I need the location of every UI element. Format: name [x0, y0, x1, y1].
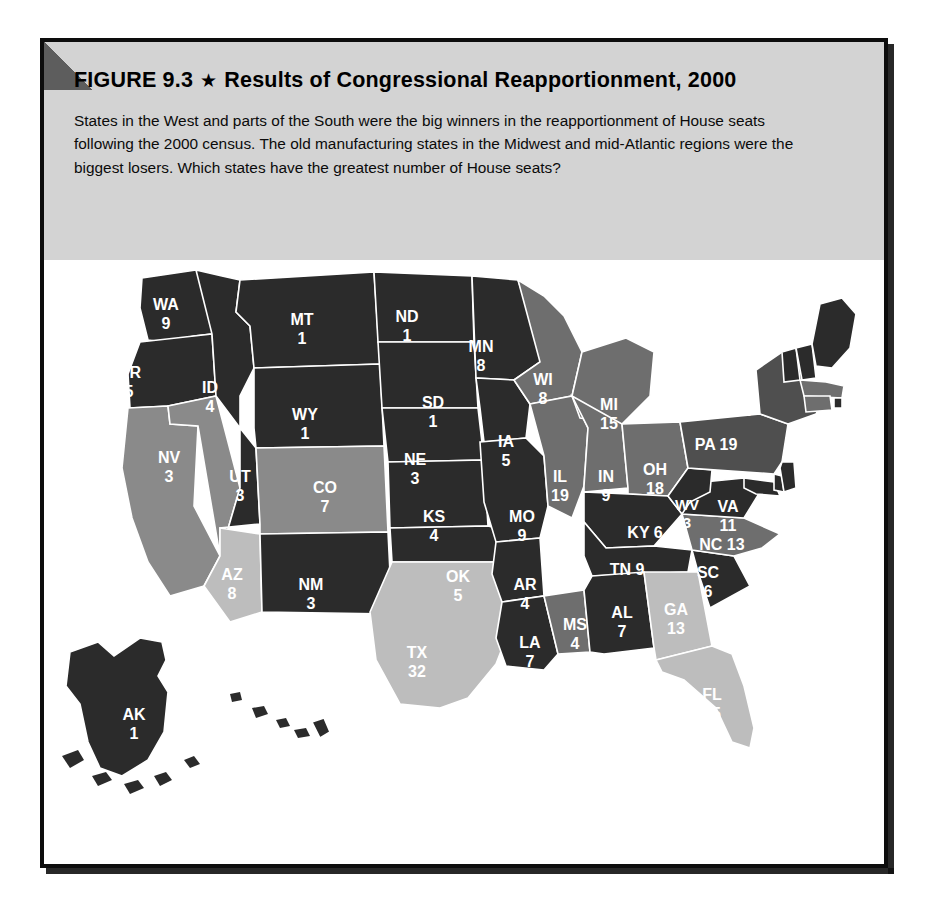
figure-number: FIGURE 9.3: [74, 68, 193, 92]
state-label-mo-abbr: MO: [509, 508, 535, 525]
state-label-az-seats: 8: [228, 585, 237, 602]
state-label-ks-seats: 4: [430, 527, 439, 544]
state-shape-ri[interactable]: [834, 398, 842, 408]
state-label-wa-seats: 9: [162, 315, 171, 332]
state-label-tx-seats: 32: [408, 663, 426, 680]
state-label-il-seats: 19: [551, 487, 569, 504]
state-label-co-abbr: CO: [313, 479, 337, 496]
state-label-sd-abbr: SD: [422, 394, 444, 411]
state-label-wy-abbr: WY: [292, 406, 318, 423]
state-label-ny-seats: 29: [735, 402, 753, 419]
state-label-wide-4: ME: [793, 304, 817, 321]
hawaii-island-3[interactable]: [276, 718, 290, 728]
state-shape-wy[interactable]: [254, 364, 384, 448]
state-label-sd-seats: 1: [429, 413, 438, 430]
state-label-fl-abbr: FL: [702, 686, 722, 703]
state-label-wa-abbr: WA: [153, 296, 179, 313]
state-label-ia-abbr: IA: [498, 433, 514, 450]
state-shape-ct[interactable]: [804, 396, 832, 412]
state-shape-hi[interactable]: [312, 718, 330, 738]
state-label-id-abbr: ID: [202, 379, 218, 396]
state-label-mi-abbr: MI: [600, 396, 618, 413]
aleutian-island-3[interactable]: [124, 780, 144, 794]
aleutian-island-1[interactable]: [62, 750, 84, 768]
state-label-sc-abbr: SC: [697, 564, 720, 581]
state-label-mo-seats: 9: [518, 527, 527, 544]
figure-container: FIGURE 9.3★Results of Congressional Reap…: [40, 38, 888, 868]
aleutian-island-2[interactable]: [92, 772, 112, 786]
state-label-wide-0: KY 6: [627, 524, 662, 541]
state-label-mn-abbr: MN: [469, 338, 494, 355]
state-label-ms-seats: 4: [571, 635, 580, 652]
us-choropleth-map[interactable]: WA9OR5ID4MT1WY1NV3UT3CO7CA53AZ8NM3ND1SD1…: [44, 256, 884, 868]
state-label-nv-abbr: NV: [158, 449, 181, 466]
state-label-or-seats: 5: [125, 383, 134, 400]
state-label-wide-3: NC 13: [699, 536, 744, 553]
state-label-va-seats: 11: [720, 517, 737, 534]
state-label-wy-seats: 1: [301, 425, 310, 442]
state-label-mt-seats: 1: [298, 330, 307, 347]
figure-frame-shadow-right: [888, 44, 894, 874]
state-label-wi-seats: 8: [539, 390, 548, 407]
state-label-ny-abbr: NY: [733, 383, 756, 400]
state-label-ia-seats: 5: [502, 452, 511, 469]
state-label-wide-1: TN 9: [610, 561, 645, 578]
aleutian-island-4[interactable]: [154, 772, 172, 786]
state-label-nv-seats: 3: [165, 468, 174, 485]
hawaii-island-2[interactable]: [252, 706, 268, 718]
state-label-mn-seats: 8: [477, 357, 486, 374]
state-label-wv-abbr: WV: [675, 496, 699, 513]
hawaii-island-4[interactable]: [294, 728, 310, 738]
state-label-in-seats: 9: [602, 487, 611, 504]
state-label-ms-abbr: MS: [563, 616, 587, 633]
figure-title-text: Results of Congressional Reapportionment…: [224, 68, 736, 92]
figure-caption: States in the West and parts of the Sout…: [74, 109, 809, 179]
state-label-oh-seats: 18: [646, 480, 664, 497]
state-label-mt-abbr: MT: [290, 311, 313, 328]
state-label-wv-seats: 3: [683, 514, 691, 531]
state-label-ga-seats: 13: [667, 620, 685, 637]
state-label-sc-seats: 6: [704, 583, 713, 600]
aleutian-island-5[interactable]: [184, 756, 200, 768]
state-label-va-abbr: VA: [717, 498, 738, 515]
state-shapes-group: [62, 270, 856, 794]
state-label-co-seats: 7: [321, 498, 330, 515]
state-label-ne-seats: 3: [411, 470, 420, 487]
star-icon: ★: [200, 70, 217, 91]
state-label-ut-seats: 3: [236, 487, 245, 504]
state-label-tx-abbr: TX: [407, 644, 428, 661]
map-area: WA9OR5ID4MT1WY1NV3UT3CO7CA53AZ8NM3ND1SD1…: [44, 260, 884, 868]
state-label-al-abbr: AL: [611, 604, 633, 621]
state-label-az-abbr: AZ: [221, 566, 243, 583]
state-label-nd-abbr: ND: [395, 308, 418, 325]
state-label-la-seats: 7: [526, 653, 535, 670]
state-label-wide-2: PA 19: [695, 436, 738, 453]
state-label-ok-abbr: OK: [446, 568, 470, 585]
state-label-oh-abbr: OH: [643, 461, 667, 478]
state-label-ok-seats: 5: [454, 587, 463, 604]
state-label-ca-abbr: CA: [101, 496, 125, 513]
state-label-in-abbr: IN: [598, 468, 614, 485]
state-shape-me[interactable]: [812, 298, 856, 368]
state-label-id-seats: 4: [206, 398, 215, 415]
state-label-ut-abbr: UT: [229, 468, 251, 485]
state-shape-nm[interactable]: [260, 532, 392, 614]
state-shape-or[interactable]: [128, 334, 216, 408]
figure-frame-shadow-bottom: [46, 868, 894, 874]
state-label-ar-abbr: AR: [513, 576, 537, 593]
state-label-la-abbr: LA: [519, 634, 541, 651]
state-label-wi-abbr: WI: [533, 371, 553, 388]
hawaii-island-1[interactable]: [230, 692, 242, 702]
state-label-fl-seats: 25: [703, 705, 721, 722]
state-shape-ak[interactable]: [66, 638, 168, 776]
state-label-mi-seats: 15: [600, 415, 618, 432]
state-label-ne-abbr: NE: [404, 451, 427, 468]
state-shape-nd[interactable]: [374, 272, 474, 342]
state-label-ca-seats: 53: [104, 515, 122, 532]
state-label-or-abbr: OR: [117, 364, 141, 381]
state-label-ga-abbr: GA: [664, 601, 688, 618]
state-label-ar-seats: 4: [521, 595, 530, 612]
state-label-nm-seats: 3: [307, 595, 316, 612]
state-label-nd-seats: 1: [403, 327, 412, 344]
state-label-ks-abbr: KS: [423, 508, 446, 525]
